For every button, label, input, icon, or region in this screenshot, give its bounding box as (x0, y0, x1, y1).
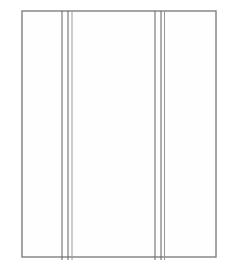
drawing-surface (0, 0, 230, 270)
technical-line-drawing (0, 0, 230, 270)
panel-border (22, 11, 216, 257)
